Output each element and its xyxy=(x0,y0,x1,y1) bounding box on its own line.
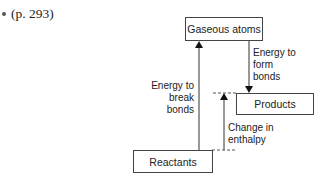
break-bonds-line-2: break xyxy=(140,92,194,104)
arrow-down-icon xyxy=(245,86,253,93)
gaseous-atoms-label: Gaseous atoms xyxy=(187,23,261,35)
break-bonds-line-1: Energy to xyxy=(140,80,194,92)
enthalpy-line-1: Change in xyxy=(228,122,274,134)
form-bonds-line-3: bonds xyxy=(253,71,296,83)
arrow-up-icon xyxy=(220,93,228,100)
reactants-label: Reactants xyxy=(149,156,196,168)
reactants-box: Reactants xyxy=(133,150,213,173)
form-bonds-label: Energy to form bonds xyxy=(253,47,296,83)
form-bonds-line-2: form xyxy=(253,59,296,71)
form-bonds-line-1: Energy to xyxy=(253,47,296,59)
products-box: Products xyxy=(236,93,314,115)
gaseous-atoms-box: Gaseous atoms xyxy=(185,17,263,41)
break-bonds-label: Energy to break bonds xyxy=(140,80,194,116)
products-label: Products xyxy=(254,98,295,110)
enthalpy-label: Change in enthalpy xyxy=(228,122,274,146)
break-bonds-line-3: bonds xyxy=(140,104,194,116)
enthalpy-line-2: enthalpy xyxy=(228,134,274,146)
arrow-up-icon xyxy=(195,41,203,48)
